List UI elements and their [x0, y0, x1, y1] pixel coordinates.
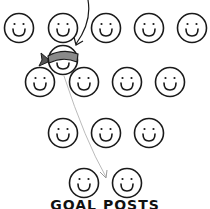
smiley-face-icon	[92, 119, 121, 148]
smiley-face-icon	[70, 169, 99, 198]
diagram-canvas	[0, 0, 210, 209]
smiley-face-icon	[156, 68, 185, 97]
smiley-face-icon	[49, 14, 78, 43]
smiley-face-icon	[92, 14, 121, 43]
smiley-face-icon	[49, 119, 78, 148]
smiley-face-icon	[113, 169, 142, 198]
smiley-face-icon	[135, 119, 164, 148]
smiley-face-icon	[5, 14, 34, 43]
goal-posts-label: GOAL POSTS	[0, 197, 210, 209]
pointer-arrow	[76, 0, 89, 44]
smiley-face-icon	[70, 68, 99, 97]
smiley-face-icon	[135, 14, 164, 43]
smiley-face-icon	[26, 68, 55, 97]
faces-group	[5, 14, 207, 198]
smiley-face-icon	[113, 68, 142, 97]
smiley-face-icon	[178, 14, 207, 43]
blindfold-knot-icon	[39, 53, 48, 66]
guide-arrowhead-icon	[100, 170, 107, 178]
